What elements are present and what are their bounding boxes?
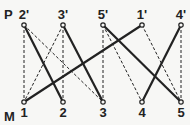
node-circle xyxy=(61,23,65,27)
node-label-m: 4 xyxy=(138,105,146,120)
node-circle xyxy=(101,100,105,104)
node-label-p: 1' xyxy=(137,7,147,22)
node-circle xyxy=(22,100,26,104)
node-circle xyxy=(179,100,183,104)
node-label-m: 2 xyxy=(59,105,66,120)
node-circle xyxy=(22,23,26,27)
edge-solid xyxy=(103,25,181,102)
bipartite-matching-diagram: 2'3'5'1'4'12345 P M xyxy=(0,0,190,125)
node-label-p: 5' xyxy=(98,7,108,22)
node-circle xyxy=(101,23,105,27)
node-label-p: 2' xyxy=(19,7,29,22)
node-circle xyxy=(179,23,183,27)
node-label-m: 1 xyxy=(20,105,27,120)
node-label-p: 3' xyxy=(58,7,68,22)
node-circle xyxy=(140,23,144,27)
edges xyxy=(24,25,181,102)
node-circle xyxy=(61,100,65,104)
node-label-m: 3 xyxy=(99,105,106,120)
row-label-p: P xyxy=(4,7,13,22)
node-label-p: 4' xyxy=(176,7,186,22)
row-label-m: M xyxy=(4,109,15,124)
edge-solid xyxy=(24,25,142,102)
node-label-m: 5 xyxy=(177,105,184,120)
node-circle xyxy=(140,100,144,104)
